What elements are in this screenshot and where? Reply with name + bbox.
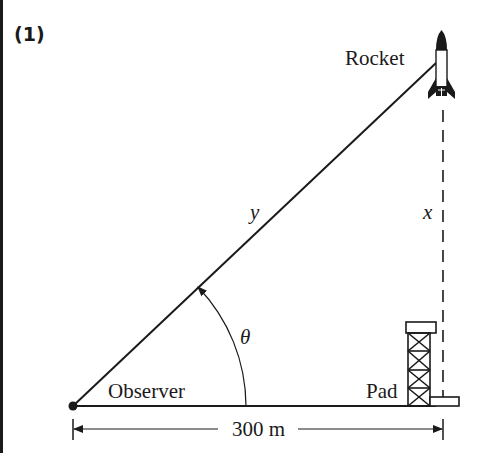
distance-label: 300 m — [226, 417, 291, 442]
rocket-icon — [428, 30, 455, 99]
observer-dot — [69, 402, 78, 411]
line-of-sight — [73, 63, 436, 406]
pad-label: Pad — [366, 379, 398, 404]
diagram-frame: (1) Rocket Observer Pad 300 m y x θ — [0, 0, 483, 453]
hypotenuse-variable: y — [250, 200, 259, 225]
height-variable: x — [423, 200, 432, 225]
angle-variable: θ — [240, 325, 250, 350]
rocket-label: Rocket — [345, 46, 404, 71]
diagram-canvas — [0, 0, 483, 453]
figure-number: (1) — [14, 23, 45, 45]
launch-tower-icon — [406, 322, 459, 406]
observer-label: Observer — [108, 379, 185, 404]
angle-arc — [198, 287, 246, 406]
